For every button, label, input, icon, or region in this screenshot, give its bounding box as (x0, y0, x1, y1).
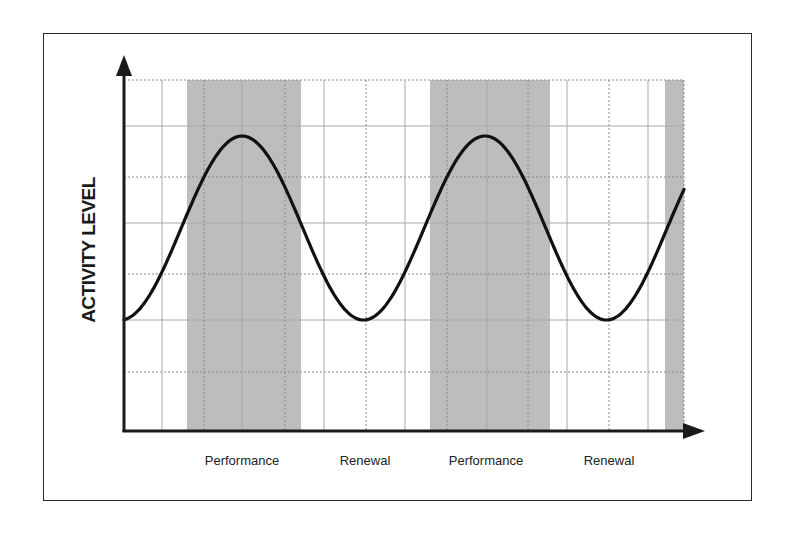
shade-performance-3 (665, 80, 684, 430)
activity-cycle-chart: ACTIVITY LEVEL Performance Renewal Perfo… (0, 0, 797, 534)
shade-performance-2 (430, 80, 550, 430)
x-label-renewal-2: Renewal (584, 453, 635, 468)
x-label-renewal-1: Renewal (340, 453, 391, 468)
y-axis-label: ACTIVITY LEVEL (78, 176, 99, 323)
y-axis-arrow-icon (116, 55, 132, 76)
x-label-performance-1: Performance (205, 453, 279, 468)
x-axis-arrow-icon (683, 423, 705, 439)
x-label-performance-2: Performance (449, 453, 523, 468)
